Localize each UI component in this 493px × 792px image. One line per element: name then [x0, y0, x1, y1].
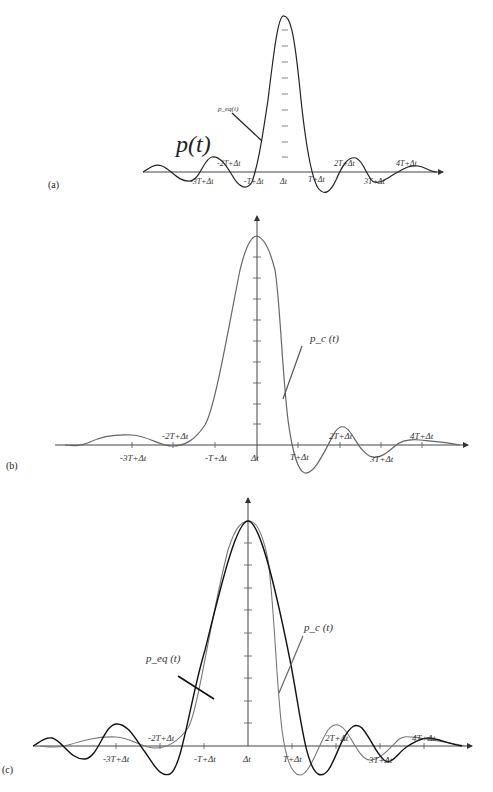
p-c-arrow — [279, 636, 303, 693]
p-c-label: p_c (t) — [309, 332, 339, 345]
p-eq-arrow — [232, 113, 262, 141]
tick-label: Δt — [279, 177, 288, 186]
tick-label: -3T+Δt — [120, 453, 147, 463]
tick-label: T+Δt — [290, 452, 309, 462]
p-eq-label: p_eq(t) — [217, 105, 239, 113]
p-c-label: p_c (t) — [303, 621, 333, 634]
tick-label: -3T+Δt — [190, 177, 214, 186]
tick-label: 4T+Δt — [396, 159, 418, 168]
tick-label: 4T+Δt — [412, 733, 436, 743]
panel-c: p_eq (t) p_c (t) (c) -3T+Δt -2T+Δt -T+Δt… — [2, 498, 472, 776]
tick-label: 2T+Δt — [334, 159, 356, 168]
p-eq-arrow — [178, 676, 214, 699]
y-ticks — [282, 30, 288, 157]
figure-canvas: p_eq(t) p(t) (a) -3T+Δt -2T+Δt -T+Δt Δt … — [0, 0, 493, 792]
panel-a-label: (a) — [48, 179, 59, 191]
tick-label: Δt — [250, 453, 259, 463]
panel-c-label: (c) — [2, 764, 13, 776]
panel-b-label: (b) — [6, 460, 18, 472]
tick-label: 3T+Δt — [363, 177, 386, 186]
tick-label: T+Δt — [283, 754, 302, 764]
tick-label: -2T+Δt — [148, 733, 175, 743]
tick-label: 4T+Δt — [410, 431, 434, 441]
tick-label: -T+Δt — [194, 754, 216, 764]
tick-label: 3T+Δt — [369, 454, 394, 464]
p-eq-curve — [143, 16, 437, 192]
p-c-arrow — [283, 346, 302, 399]
tick-label: -3T+Δt — [103, 754, 130, 764]
tick-label: 3T+Δt — [368, 755, 393, 765]
tick-label: Δt — [242, 754, 251, 764]
tick-label: 2T+Δt — [325, 733, 349, 743]
tick-label: T+Δt — [308, 175, 326, 184]
tick-label: 2T+Δt — [329, 431, 353, 441]
panel-b: p_c (t) (b) -3T+Δt -2T+Δt -T+Δt Δt T+Δt … — [6, 216, 468, 473]
tick-label: -T+Δt — [205, 453, 227, 463]
panel-a: p_eq(t) p(t) (a) -3T+Δt -2T+Δt -T+Δt Δt … — [48, 16, 443, 192]
tick-label: -2T+Δt — [162, 431, 189, 441]
p-c-curve — [65, 236, 460, 473]
p-eq-label: p_eq (t) — [145, 652, 181, 665]
tick-label: -2T+Δt — [217, 159, 241, 168]
p-t-label: p(t) — [174, 131, 211, 157]
tick-label: -T+Δt — [244, 177, 264, 186]
